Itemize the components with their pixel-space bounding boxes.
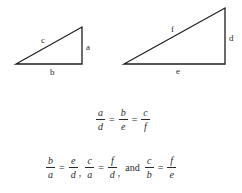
fraction-e-over-d: e d bbox=[69, 155, 78, 180]
fraction-f-over-e: f e bbox=[167, 155, 175, 180]
fraction-c-over-a: c a bbox=[85, 155, 94, 180]
derived-ratios-equation: b a = e d , c a = f d , and c b = f e bbox=[45, 155, 177, 180]
fraction-f-over-d: f d bbox=[108, 155, 117, 180]
comma: , bbox=[79, 167, 82, 180]
and-word: and bbox=[125, 162, 139, 173]
fraction-b-over-e: b e bbox=[119, 107, 128, 132]
fraction-c-over-f: c f bbox=[141, 107, 149, 132]
label-d: d bbox=[229, 33, 234, 43]
label-f: f bbox=[171, 24, 174, 34]
equals-sign: = bbox=[158, 162, 164, 173]
equals-sign: = bbox=[59, 162, 65, 173]
small-triangle: c a b bbox=[16, 27, 90, 77]
label-b: b bbox=[50, 67, 55, 77]
fraction-c-over-b: c b bbox=[145, 155, 154, 180]
label-a: a bbox=[86, 42, 90, 52]
label-c: c bbox=[41, 35, 45, 45]
equals-sign: = bbox=[132, 114, 138, 125]
equals-sign: = bbox=[109, 114, 115, 125]
proportion-equation: a d = b e = c f bbox=[95, 107, 151, 132]
equals-sign: = bbox=[98, 162, 104, 173]
label-e: e bbox=[176, 66, 180, 76]
large-triangle: f d e bbox=[124, 8, 234, 76]
fraction-a-over-d: a d bbox=[96, 107, 105, 132]
fraction-b-over-a: b a bbox=[46, 155, 55, 180]
comma: , bbox=[118, 167, 121, 180]
